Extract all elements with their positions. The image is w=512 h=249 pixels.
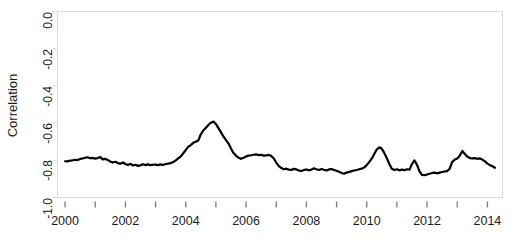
axis-tick-marks [53, 12, 488, 208]
chart-figure: Correlation 0.0-0.2-0.4-0.6-0.8-1.0 2000… [0, 0, 512, 249]
data-line-correlation [65, 122, 495, 176]
plot-border [58, 12, 503, 198]
data-series-group [65, 122, 495, 176]
plot-area [0, 0, 512, 249]
plot-frame [58, 12, 503, 198]
